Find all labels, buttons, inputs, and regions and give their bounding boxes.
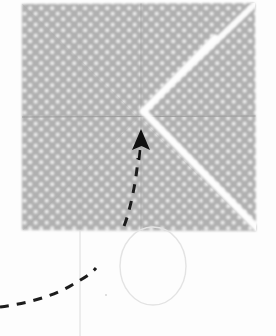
pencil-marks-group	[80, 227, 186, 336]
pencil-dot-speck	[105, 294, 107, 296]
origami-diagram-canvas	[0, 0, 276, 336]
fold-motion-dashed-curve-lower	[0, 268, 96, 307]
diagram-svg	[0, 0, 276, 336]
pencil-oval-outline	[120, 227, 186, 305]
arrow-shaft	[139, 150, 140, 160]
dashed-path-below-paper	[0, 268, 96, 307]
